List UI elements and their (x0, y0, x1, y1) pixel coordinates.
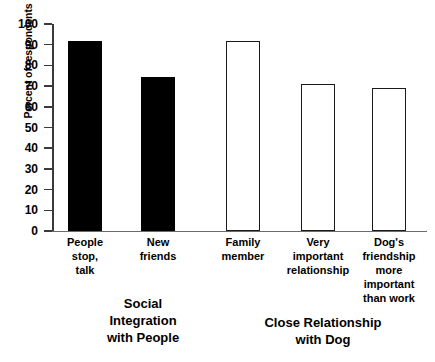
y-tick-90 (44, 44, 52, 46)
x-tick-label-4: Dog's friendship more important than wor… (344, 236, 434, 306)
y-tick-60 (44, 106, 52, 108)
y-tick-label-90: 90 (0, 39, 38, 51)
y-tick-10 (44, 210, 52, 212)
y-tick-label-40: 40 (0, 142, 38, 154)
y-tick-label-50: 50 (0, 122, 38, 134)
y-tick-40 (44, 147, 52, 149)
y-tick-0 (44, 230, 52, 232)
y-axis-line (52, 24, 54, 232)
group-label-social-integration: Social Integration with People (48, 296, 238, 347)
y-tick-20 (44, 189, 52, 191)
group-label-close-relationship: Close Relationship with Dog (218, 315, 428, 349)
bar-4 (372, 88, 406, 231)
y-tick-50 (44, 127, 52, 129)
y-tick-label-0: 0 (0, 225, 38, 237)
y-tick-label-60: 60 (0, 101, 38, 113)
y-tick-label-100: 100 (0, 18, 38, 30)
y-tick-100 (44, 23, 52, 25)
bar-1 (141, 77, 175, 231)
y-tick-30 (44, 168, 52, 170)
y-tick-80 (44, 65, 52, 67)
y-tick-label-80: 80 (0, 59, 38, 71)
bar-2 (226, 41, 260, 231)
bar-3 (301, 84, 335, 231)
y-tick-label-20: 20 (0, 184, 38, 196)
y-tick-70 (44, 85, 52, 87)
y-tick-label-30: 30 (0, 163, 38, 175)
bar-0 (68, 41, 102, 231)
y-tick-label-70: 70 (0, 80, 38, 92)
y-tick-label-10: 10 (0, 204, 38, 216)
bar-chart-figure: Percent of respondents 01020304050607080… (0, 0, 435, 362)
x-tick-label-1: New friends (113, 236, 203, 264)
